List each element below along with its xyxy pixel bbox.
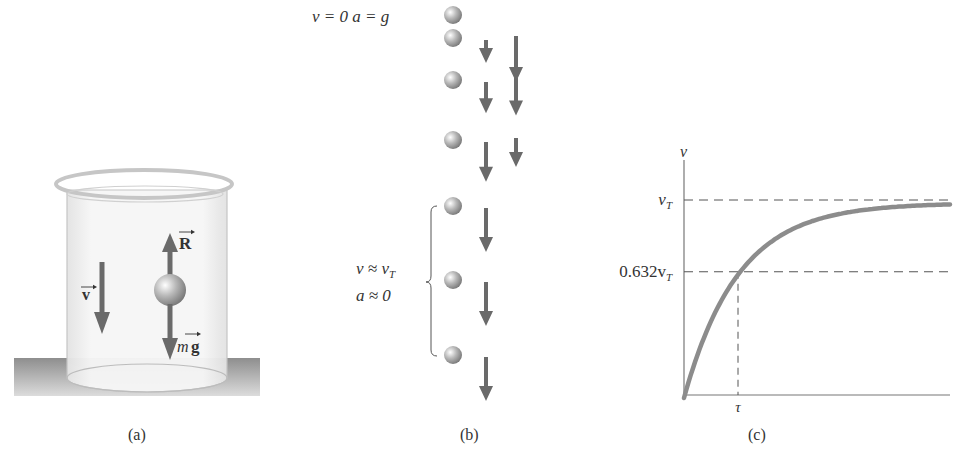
beaker	[67, 190, 227, 392]
resistive-force-label: R	[179, 234, 192, 253]
falling-ball-sequence	[444, 6, 523, 401]
panel-c: v vT 0.632vT τ (c)	[619, 143, 954, 444]
velocity-arrow	[479, 357, 493, 401]
ball	[444, 71, 462, 89]
gravity-label-g: g	[191, 337, 200, 356]
velocity-curve	[684, 204, 950, 398]
acceleration-arrow	[509, 36, 523, 82]
velocity-arrow	[479, 82, 493, 113]
y-axis-label: v	[680, 143, 688, 160]
ytick-vT-subscript: T	[666, 199, 673, 211]
panel-label-c: (c)	[748, 426, 766, 444]
velocity-arrow	[479, 208, 493, 252]
ytick-632vT-text: 0.632v	[619, 262, 666, 281]
acceleration-arrow	[509, 78, 523, 116]
ball	[444, 197, 462, 215]
figure-canvas: v R m g (a) v = 0 a = g	[0, 0, 955, 458]
panel-b: v = 0 a = g v ≈ vT a ≈ 0 (b)	[312, 6, 523, 444]
panel-a: v R m g (a)	[14, 170, 260, 444]
velocity-arrow	[479, 282, 493, 326]
panel-label-b: (b)	[460, 426, 479, 444]
ball	[444, 131, 462, 149]
ball	[444, 271, 462, 289]
velocity-label: v	[82, 286, 90, 303]
ball	[444, 346, 462, 364]
terminal-velocity-text: v ≈ v	[356, 259, 389, 278]
ball	[444, 29, 462, 47]
ytick-label-vT: vT	[658, 190, 673, 211]
ytick-632vT-subscript: T	[666, 271, 673, 283]
gravity-label-m: m	[177, 338, 189, 355]
acceleration-arrow	[509, 138, 523, 167]
terminal-velocity-label: v ≈ vT	[356, 259, 396, 280]
terminal-velocity-subscript: T	[389, 268, 396, 280]
terminal-acceleration-label: a ≈ 0	[356, 286, 391, 305]
xtick-label-tau: τ	[735, 399, 741, 415]
ytick-label-632vT: 0.632vT	[619, 262, 673, 283]
panel-label-a: (a)	[128, 426, 146, 444]
initial-state-label: v = 0 a = g	[312, 7, 389, 26]
ball	[444, 6, 462, 24]
velocity-arrow	[479, 40, 493, 63]
ball	[154, 274, 186, 306]
terminal-region-brace	[426, 206, 437, 356]
velocity-arrow	[479, 142, 493, 182]
